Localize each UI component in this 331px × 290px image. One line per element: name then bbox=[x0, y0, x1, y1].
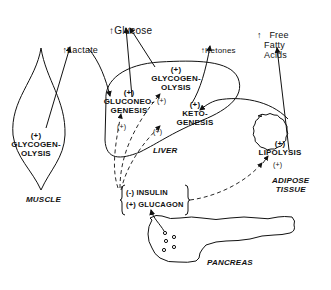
pancreas-outline bbox=[148, 215, 295, 262]
adipose-tissue-label: ADIPOSE TISSUE bbox=[272, 176, 309, 194]
ketones-output-label: ↑Ketones bbox=[196, 37, 236, 55]
lactate-output-label: ↑Lactate bbox=[57, 37, 98, 55]
diagram-canvas: ↑Glucose ↑Lactate ↑Ketones ↑Free Fatty A… bbox=[0, 0, 331, 290]
liver-glycogenolysis-label: (+) GLYCOGEN- OLYSIS bbox=[148, 65, 204, 92]
plus-marker-ketogenesis: (+) bbox=[153, 127, 162, 136]
ketones-label: Ketones bbox=[205, 46, 236, 55]
ketogenesis-label: (+) KETO- GENESIS bbox=[170, 100, 220, 127]
pancreas-label: PANCREAS bbox=[207, 258, 253, 267]
lipolysis-label: (+) LIPOLYSIS bbox=[257, 139, 303, 157]
plus-marker-glycogenolysis: (+) bbox=[157, 96, 166, 105]
muscle-glycogenolysis-label: (+) GLYCOGEN- OLYSIS bbox=[5, 131, 67, 158]
gluconeogenesis-label: (+) GLUCONEO- GENESIS bbox=[103, 88, 155, 115]
muscle-outline bbox=[13, 48, 65, 190]
liver-label: LIVER bbox=[153, 146, 178, 155]
plus-marker-lipolysis: (+) bbox=[273, 160, 282, 169]
plus-marker-gluconeogenesis: (+) bbox=[117, 122, 126, 131]
ffa-label: Free Fatty Acids bbox=[264, 30, 289, 60]
muscle-label: MUSCLE bbox=[26, 195, 61, 204]
insulin-label: (-) INSULIN bbox=[126, 188, 168, 197]
lactate-label: Lactate bbox=[67, 45, 98, 55]
glucose-label: Glucose bbox=[114, 25, 152, 36]
ffa-output-label: ↑Free Fatty Acids bbox=[264, 20, 289, 60]
up-arrow-icon: ↑ bbox=[257, 30, 262, 40]
glucagon-label: (+) GLUCAGON bbox=[126, 200, 184, 209]
glucose-output-label: ↑Glucose bbox=[103, 14, 152, 36]
